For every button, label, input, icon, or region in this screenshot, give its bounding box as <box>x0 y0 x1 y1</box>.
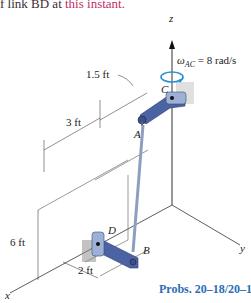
point-b-label: B <box>143 244 150 256</box>
leader-line <box>118 75 133 86</box>
y-axis-label: y <box>239 242 245 254</box>
dimension-line-1-5ft <box>100 93 147 120</box>
c-bracket <box>166 92 186 104</box>
rod-ab <box>133 125 143 252</box>
z-axis-arrowhead <box>169 40 175 49</box>
figure-caption: Probs. 20–18/20–19 <box>159 282 251 297</box>
guide-line <box>38 160 128 210</box>
d-pin <box>96 242 100 246</box>
z-axis-label: z <box>168 12 174 24</box>
point-a-label: A <box>133 128 141 140</box>
point-d-label: D <box>107 224 116 236</box>
dimension-1-5ft-label: 1.5 ft <box>86 68 109 80</box>
dimension-3ft-label: 3 ft <box>66 116 81 128</box>
y-axis <box>172 205 240 245</box>
b-joint <box>130 259 136 265</box>
dimension-6ft-label: 6 ft <box>10 236 25 248</box>
point-c-label: C <box>161 83 169 95</box>
mechanism-figure: z y x 1.5 ft 3 ft 6 ft 2 ft C A D B ωAC … <box>0 0 251 303</box>
x-axis-label: x <box>4 289 10 301</box>
dimension-2ft-label: 2 ft <box>78 264 93 276</box>
c-pin <box>170 96 174 100</box>
omega-label: ωAC = 8 rad/s <box>177 54 236 69</box>
